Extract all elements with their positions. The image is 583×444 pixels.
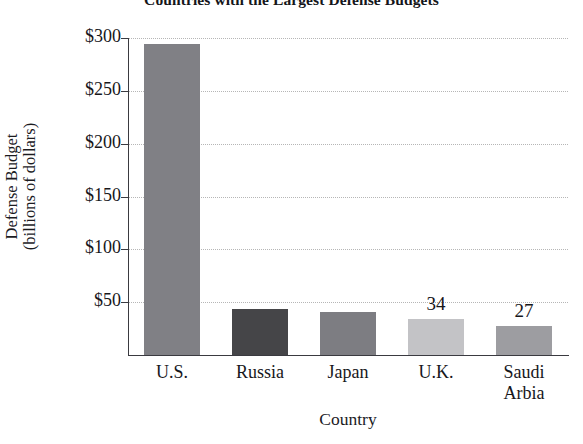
bar-value-label: 27: [484, 300, 564, 322]
y-axis-tick-label: $150: [11, 185, 121, 206]
y-axis-tick-label: $200: [11, 132, 121, 153]
bar: [408, 319, 464, 355]
y-axis-tick-mark: [121, 197, 129, 198]
y-axis-tick-label: $50: [11, 290, 121, 311]
x-axis-line: [128, 355, 569, 356]
y-axis-tick-mark: [121, 91, 129, 92]
y-axis-tick-mark: [121, 302, 129, 303]
x-axis-title: Country: [128, 409, 568, 430]
gridline: [128, 38, 568, 39]
category-label-line-2: Arbia: [469, 383, 579, 404]
category-label-line-1: Saudi: [469, 362, 579, 383]
y-axis-tick-labels: $300$250$200$150$100$50: [4, 0, 121, 444]
bar: [232, 309, 288, 355]
bar: [320, 312, 376, 355]
y-axis-tick-label: $300: [11, 26, 121, 47]
bar-value-label: 34: [396, 293, 476, 315]
y-axis-tick-mark: [121, 249, 129, 250]
y-axis-tick-mark: [121, 38, 129, 39]
bar: [496, 326, 552, 355]
y-axis-tick-label: $100: [11, 237, 121, 258]
y-axis-tick-mark: [121, 144, 129, 145]
y-axis-tick-label: $250: [11, 79, 121, 100]
bar-chart-figure: Countries with the Largest Defense Budge…: [0, 0, 583, 444]
plot-area: 3427: [128, 38, 568, 355]
x-axis-category-label: SaudiArbia: [469, 362, 579, 404]
bar: [144, 44, 200, 355]
